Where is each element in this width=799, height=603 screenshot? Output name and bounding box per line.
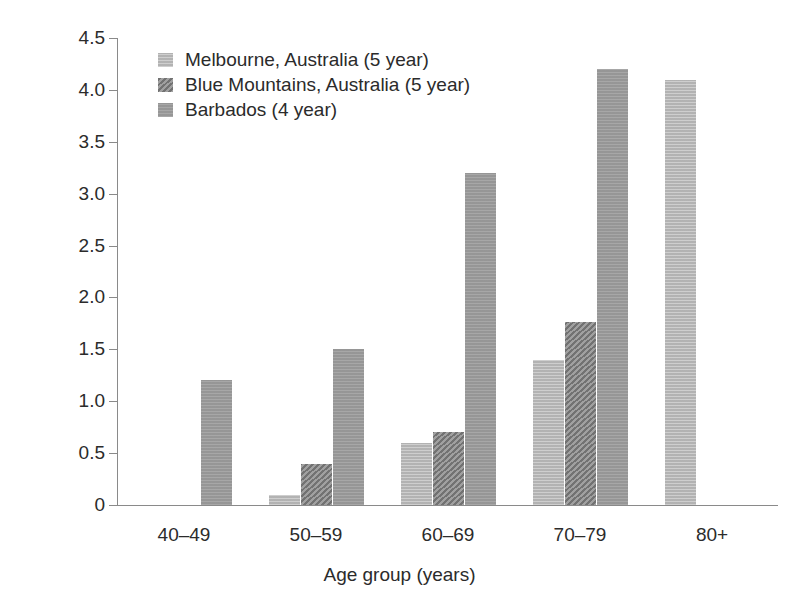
legend-item-label: Barbados (4 year) [185,99,337,121]
legend-swatch-icon [158,78,173,92]
x-axis-line [118,505,778,506]
y-axis-tick-mark [109,505,117,506]
y-axis-tick-label: 0.5 [0,443,105,463]
y-axis-tick-mark [109,142,117,143]
legend-item-label: Blue Mountains, Australia (5 year) [185,74,470,96]
x-axis-category-label: 60–69 [382,524,514,546]
y-axis-tick-mark [109,453,117,454]
y-axis-tick-label: 4.5 [0,28,105,48]
legend-swatch-icon [158,53,173,67]
bar-chart: 00.51.01.52.02.53.03.54.04.5 Incidence (… [0,0,799,603]
legend-swatch-icon [158,103,173,117]
y-axis-tick-label: 3.0 [0,184,105,204]
bar-melbourne-3 [533,360,564,505]
chart-legend: Melbourne, Australia (5 year)Blue Mounta… [158,47,470,122]
x-axis-category-label: 40–49 [118,524,250,546]
legend-item-label: Melbourne, Australia (5 year) [185,49,429,71]
y-axis-tick-mark [109,297,117,298]
x-axis-category-label: 70–79 [514,524,646,546]
y-axis-tick-label: 1.5 [0,339,105,359]
y-axis-tick-label: 3.5 [0,132,105,152]
y-axis-tick-label: 2.5 [0,236,105,256]
y-axis-tick-label: 2.0 [0,287,105,307]
bar-melbourne-2 [401,443,432,505]
bar-bluemountains-3 [565,322,596,505]
bar-melbourne-4 [665,80,696,505]
bar-bluemountains-2 [433,432,464,505]
x-axis-category-label: 50–59 [250,524,382,546]
bar-barbados-1 [333,349,364,505]
y-axis-tick-mark [109,349,117,350]
y-axis-tick-mark [109,90,117,91]
y-axis-tick-mark [109,246,117,247]
y-axis-tick-mark [109,194,117,195]
bar-barbados-3 [597,69,628,505]
bar-bluemountains-1 [301,464,332,506]
bar-melbourne-1 [269,495,300,505]
x-axis-title: Age group (years) [0,564,799,586]
x-axis-category-label: 80+ [646,524,778,546]
y-axis-tick-mark [109,401,117,402]
bar-barbados-2 [465,173,496,505]
legend-item-barbados: Barbados (4 year) [158,97,470,122]
legend-item-melbourne: Melbourne, Australia (5 year) [158,47,470,72]
y-axis-tick-label: 1.0 [0,391,105,411]
legend-item-bluemountains: Blue Mountains, Australia (5 year) [158,72,470,97]
y-axis-tick-label: 4.0 [0,80,105,100]
y-axis-tick-mark [109,38,117,39]
y-axis-tick-label: 0 [0,495,105,515]
bar-barbados-0 [201,380,232,505]
